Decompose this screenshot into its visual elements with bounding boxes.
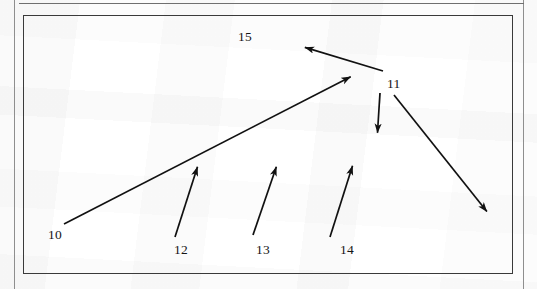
leader-line-11	[378, 93, 380, 133]
reference-numeral-13: 13	[256, 243, 270, 257]
leader-arrow-group	[64, 47, 487, 237]
reference-numeral-14: 14	[340, 243, 354, 257]
reference-numeral-12: 12	[174, 243, 188, 257]
reference-numeral-11: 11	[387, 77, 401, 91]
leader-line-11	[394, 95, 487, 212]
reference-numeral-10: 10	[48, 228, 62, 242]
leader-line-12	[175, 167, 197, 237]
leader-line-10	[64, 77, 351, 224]
leader-line-14	[330, 166, 353, 237]
reference-numeral-15: 15	[238, 30, 252, 44]
patent-figure-page: 101511121314	[0, 0, 537, 289]
leader-line-15	[305, 47, 383, 71]
leader-line-13	[253, 167, 276, 235]
